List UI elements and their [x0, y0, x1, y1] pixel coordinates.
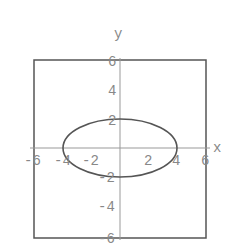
- y-tick-label: 4: [108, 83, 116, 99]
- y-tick-label: -4: [98, 199, 115, 215]
- y-tick-label: -2: [98, 170, 115, 186]
- x-tick-label: -2: [82, 153, 99, 169]
- y-tick-label: 6: [108, 54, 116, 70]
- x-tick-label: 2: [144, 153, 152, 169]
- x-tick-label: 4: [172, 153, 180, 169]
- x-axis-label: x: [213, 140, 221, 156]
- x-tick-label: -4: [54, 153, 71, 169]
- x-tick-label: 6: [201, 153, 209, 169]
- y-tick-label: 2: [108, 113, 116, 129]
- x-tick-label: -6: [24, 153, 41, 169]
- y-tick-label: -6: [98, 231, 115, 247]
- y-axis-label: y: [114, 26, 122, 42]
- ellipse-plot: y x -6 -4 -2 2 4 6 6 4 2 -2 -4 -6: [0, 0, 238, 249]
